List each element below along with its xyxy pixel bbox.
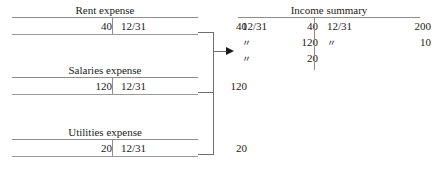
debit-amount: 40 [12,18,117,34]
t-account-utilities-expense: Utilities expense 20 12/31 20 [12,126,252,157]
debit-amount: 120 [12,78,117,94]
account-body: 12/31 40 12/31 200 〃 120 〃 10 〃 20 [238,18,436,70]
summary-row: 〃 20 [238,50,436,66]
account-center-divider [112,18,113,34]
debit-amount: 20 [12,140,117,156]
debit-amount: 40 [284,18,323,34]
summary-row: 〃 120 〃 10 [238,34,436,50]
connector-utilities [198,154,214,155]
credit-date: 12/31 [117,78,165,94]
account-rule-bottom [12,34,198,35]
connector-to-arrow [213,51,227,52]
account-entry-row: 120 12/31 120 [12,78,252,94]
credit-date-ditto: 〃 [323,35,371,51]
account-center-divider [314,18,315,70]
account-entry-row: 40 12/31 40 [12,18,252,34]
credit-date: 12/31 [117,18,165,34]
account-title-utilities-expense: Utilities expense [12,126,198,139]
credit-date: 12/31 [117,140,165,156]
debit-date-ditto: 〃 [238,35,284,51]
credit-date: 12/31 [323,18,371,34]
account-body: 20 12/31 20 [12,140,252,156]
account-title-rent-expense: Rent expense [12,4,198,17]
account-center-divider [112,78,113,94]
debit-date-ditto: 〃 [238,51,284,67]
debit-date: 12/31 [238,18,284,34]
account-title-income-summary: Income summary [238,4,420,17]
arrow-head-icon [226,47,234,55]
account-body: 120 12/31 120 [12,78,252,94]
account-rule-bottom [12,94,198,95]
account-center-divider [112,140,113,156]
account-title-salaries-expense: Salaries expense [12,64,198,77]
connector-salaries [198,92,214,93]
debit-amount: 20 [284,50,323,66]
t-account-income-summary: Income summary 12/31 40 12/31 200 〃 120 … [238,4,436,70]
account-body: 40 12/31 40 [12,18,252,34]
credit-amount: 10 [371,34,436,50]
debit-amount: 120 [284,34,323,50]
account-entry-row: 20 12/31 20 [12,140,252,156]
credit-amount: 200 [371,18,436,34]
account-rule-bottom [12,156,198,157]
connector-rent [198,32,214,33]
t-account-salaries-expense: Salaries expense 120 12/31 120 [12,64,252,95]
summary-row: 12/31 40 12/31 200 [238,18,436,34]
t-account-rent-expense: Rent expense 40 12/31 40 [12,4,252,35]
